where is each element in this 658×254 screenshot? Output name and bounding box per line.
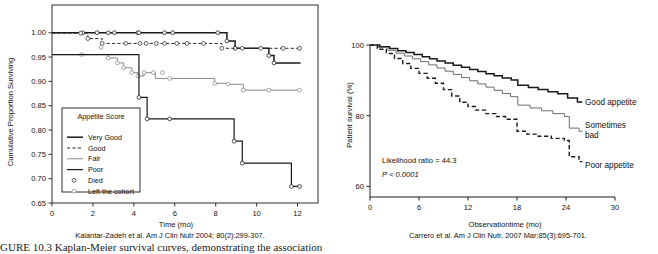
- left-censor-marker: [144, 42, 148, 46]
- left-censor-marker: [185, 42, 189, 46]
- left-censor-marker: [220, 46, 224, 50]
- right-y-tick-label: 80: [356, 112, 364, 121]
- left-censor-marker: [161, 71, 165, 75]
- left-censor-marker: [232, 139, 236, 143]
- figure-container: 0.650.700.750.800.850.900.951.00 0246810…: [0, 0, 658, 254]
- left-legend-title: Appetite Score: [77, 112, 124, 121]
- left-x-tick-label: 0: [50, 209, 54, 218]
- right-x-tick-label: 18: [513, 203, 521, 212]
- left-censor-marker: [122, 66, 126, 70]
- left-censor-marker: [99, 45, 103, 49]
- left-censor-marker: [202, 42, 206, 46]
- right-x-tick-label: 0: [368, 203, 372, 212]
- left-series-good: [52, 33, 301, 48]
- left-censor-marker: [298, 46, 302, 50]
- left-censor-marker: [124, 42, 128, 46]
- left-censor-marker: [168, 77, 172, 81]
- left-censor-marker: [298, 185, 302, 189]
- left-x-tick-label: 8: [214, 209, 218, 218]
- right-y-tick-label: 100: [351, 41, 364, 50]
- right-chart-panel: 6080100 0612182430 Good appetiteSometime…: [340, 0, 658, 254]
- left-y-tick-label: 0.90: [31, 77, 46, 86]
- left-censor-marker: [216, 31, 220, 35]
- right-y-tick-label: 60: [356, 182, 364, 191]
- left-censor-marker: [240, 46, 244, 50]
- right-series-label-2: Poor appetite: [585, 161, 634, 170]
- left-y-tick-label: 0.95: [31, 53, 46, 62]
- left-censor-marker: [290, 185, 294, 189]
- right-series-sometimes-bad: [370, 45, 582, 131]
- left-censor-marker: [113, 31, 117, 35]
- left-censor-marker: [145, 117, 149, 121]
- left-censor-marker: [281, 46, 285, 50]
- left-x-tick-label: 12: [293, 209, 301, 218]
- left-censor-marker: [267, 54, 271, 58]
- left-censor-marker: [100, 42, 104, 46]
- right-series-poor-appetite: [370, 45, 582, 162]
- right-annotations: Likelihood ratio = 44.3P < 0.0001: [382, 156, 457, 179]
- right-x-axis-ticks: 0612182430: [368, 197, 619, 212]
- left-censor-marker: [151, 71, 155, 75]
- right-x-tick-label: 6: [417, 203, 421, 212]
- left-censor-marker: [171, 31, 175, 35]
- left-legend-label-0: Very Good: [88, 133, 122, 142]
- left-censor-marker: [168, 117, 172, 121]
- left-censor-marker: [138, 42, 142, 46]
- right-x-tick-label: 30: [611, 203, 619, 212]
- left-censor-marker: [137, 31, 141, 35]
- left-censor-marker: [240, 161, 244, 165]
- right-series-label-0: Good appetite: [585, 98, 637, 107]
- left-censor-marker: [267, 88, 271, 92]
- right-x-axis-label: Observationtime (mo): [468, 220, 541, 229]
- left-censor-marker: [79, 31, 83, 35]
- left-censor-marker: [163, 31, 167, 35]
- left-y-tick-label: 0.80: [31, 126, 46, 135]
- figure-bottom-cut-caption: GURE 10.3 Kaplan-Meier survival curves, …: [0, 244, 658, 254]
- left-censor-marker: [106, 56, 110, 60]
- left-legend-marker: [72, 189, 76, 193]
- left-legend-label-4: Died: [88, 176, 103, 185]
- left-legend-marker: [72, 179, 76, 183]
- left-censor-marker: [142, 71, 146, 75]
- left-y-tick-label: 0.70: [31, 174, 46, 183]
- left-censor-marker: [272, 61, 276, 65]
- right-chart-svg: 6080100 0612182430 Good appetiteSometime…: [340, 0, 658, 254]
- left-censor-marker: [154, 42, 158, 46]
- left-x-tick-label: 2: [91, 209, 95, 218]
- right-x-tick-label: 24: [562, 203, 570, 212]
- right-y-axis-ticks: 6080100: [351, 41, 370, 191]
- right-series-label-1: bad: [585, 131, 599, 140]
- left-censor-marker: [95, 31, 99, 35]
- left-x-axis-ticks: 024681012: [50, 203, 302, 218]
- left-x-tick-label: 6: [173, 209, 177, 218]
- left-censor-marker: [116, 61, 120, 65]
- left-y-axis-ticks: 0.650.700.750.800.850.900.951.00: [31, 28, 52, 207]
- left-chart-panel: 0.650.700.750.800.850.900.951.00 0246810…: [0, 0, 340, 254]
- right-series-label-1: Sometimes: [585, 121, 626, 130]
- left-censor-marker: [213, 81, 217, 85]
- right-series-labels: Good appetiteSometimesbadPoor appetite: [585, 98, 637, 169]
- left-censor-marker: [226, 82, 230, 86]
- left-chart-caption: Kalantar-Zadeh et al. Am J Clin Nutr 200…: [75, 231, 264, 240]
- left-censor-marker: [86, 37, 90, 41]
- left-censor-marker: [259, 46, 263, 50]
- figure-caption-text: GURE 10.3 Kaplan-Meier survival curves, …: [0, 244, 658, 253]
- left-x-tick-label: 10: [252, 209, 260, 218]
- right-annotation-likelihood: Likelihood ratio = 44.3: [382, 156, 457, 165]
- left-y-tick-label: 0.65: [31, 199, 46, 208]
- left-legend-label-2: Fair: [88, 154, 101, 163]
- left-y-tick-label: 0.75: [31, 150, 46, 159]
- left-legend: Appetite ScoreVery GoodGoodFairPoorDiedL…: [62, 108, 140, 196]
- left-y-tick-label: 0.85: [31, 101, 46, 110]
- left-legend-label-3: Poor: [88, 165, 104, 174]
- left-censor-marker: [298, 88, 302, 92]
- left-y-tick-label: 1.00: [31, 28, 46, 37]
- left-x-tick-label: 4: [132, 209, 136, 218]
- right-y-axis-label: Patient survival (%): [345, 82, 354, 148]
- right-x-tick-label: 12: [464, 203, 472, 212]
- left-censor-marker: [241, 88, 245, 92]
- right-annotation-pvalue: P < 0.0001: [382, 170, 419, 179]
- left-legend-label-5: Left the cohort: [88, 187, 134, 196]
- right-chart-caption: Carrero et al. Am J Clin Nutr. 2007 Mar;…: [409, 231, 587, 240]
- left-censor-marker: [175, 42, 179, 46]
